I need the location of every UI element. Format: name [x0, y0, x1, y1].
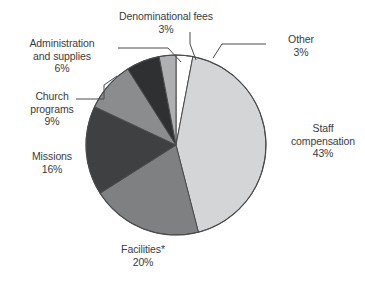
pie-chart-figure: Denominational fees 3% Other 3% Administ…	[0, 0, 365, 284]
slice-label-percent: 6%	[6, 62, 118, 75]
slice-label-name-line2: compensation	[282, 135, 364, 148]
leader-line-other	[213, 44, 266, 58]
slice-label-name-line1: Church	[6, 90, 98, 103]
slice-label-staff-compensation: Staff compensation 43%	[282, 122, 364, 160]
slice-label-name-line2: programs	[6, 103, 98, 116]
slice-label-facilities: Facilities* 20%	[88, 243, 198, 268]
slice-label-name-line1: Administration	[6, 37, 118, 50]
slice-label-name-line1: Staff	[282, 122, 364, 135]
slice-label-percent: 20%	[88, 256, 198, 269]
slice-label-name: Facilities*	[88, 243, 198, 256]
slice-label-name: Other	[268, 33, 334, 46]
slice-label-denominational-fees: Denominational fees 3%	[92, 10, 240, 35]
slice-label-church-programs: Church programs 9%	[6, 90, 98, 128]
slice-label-missions: Missions 16%	[6, 150, 98, 175]
slice-label-name-line2: and supplies	[6, 50, 118, 63]
pie-slice-group	[86, 55, 266, 235]
slice-label-percent: 16%	[6, 163, 98, 176]
slice-label-percent: 9%	[6, 115, 98, 128]
slice-label-percent: 3%	[268, 46, 334, 59]
slice-label-percent: 3%	[92, 23, 240, 36]
slice-label-percent: 43%	[282, 147, 364, 160]
slice-label-name: Denominational fees	[92, 10, 240, 23]
slice-label-administration-and-supplies: Administration and supplies 6%	[6, 37, 118, 75]
slice-label-name: Missions	[6, 150, 98, 163]
slice-label-other: Other 3%	[268, 33, 334, 58]
